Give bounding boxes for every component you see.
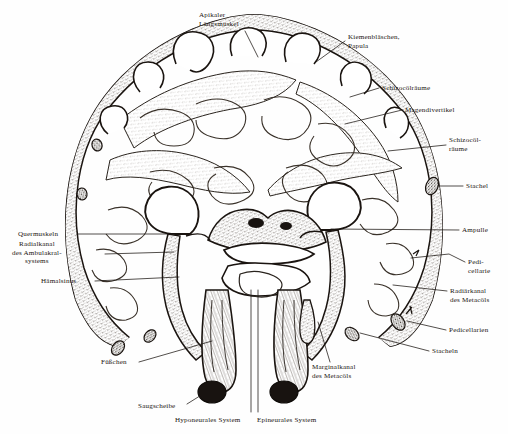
body-wall-group: [65, 14, 443, 358]
stacheln-label-line-0: Stacheln: [432, 347, 458, 356]
radialkanal-des-ambulakralsystems-label: Radialkanaldes Ambulakral-systems: [12, 240, 62, 266]
anatomical-figure: [0, 0, 508, 434]
schizocoelraeume-lower-label: Schizocöl-räume: [449, 136, 481, 153]
saugscheibe-label-line-0: Saugscheibe: [138, 402, 175, 411]
radiaerkanal-des-metacoels-label: Radiärkanaldes Metacöls: [450, 287, 489, 304]
kiemenblaeschen-papula-label-line-1: Papula: [348, 42, 400, 51]
radialkanal-des-ambulakralsystems-label-line-2: systems: [12, 257, 62, 266]
apikaler-laengsmuskel-label-line-1: Längsmuskel: [199, 20, 239, 29]
fuesschen-label-line-0: Füßchen: [101, 358, 127, 367]
pedicellarie-label-line-0: Pedi-: [468, 258, 490, 267]
schizocoelraeume-upper-label: Schizocölräume: [382, 84, 430, 93]
marginalkanal-des-metacoels-label-line-0: Marginalkanal: [312, 363, 356, 372]
tube-feet-group: [198, 290, 308, 403]
leader-schizocoel-lower: [388, 145, 446, 151]
cross-section-drawing: [0, 0, 508, 434]
pedicellarien-label-line-0: Pedicellarien: [449, 326, 488, 335]
apikaler-laengsmuskel-label-line-0: Apikaler: [199, 11, 239, 20]
fuesschen-label: Füßchen: [101, 358, 127, 367]
haemalsinus-label: Hämalsinus: [41, 277, 76, 286]
ambulacral-complex: [186, 209, 326, 297]
schizocoelraeume-upper-label-line-0: Schizocölräume: [382, 84, 430, 93]
radiaerkanal-des-metacoels-label-line-1: des Metacöls: [450, 296, 489, 305]
magendivertikel-label-line-0: Magendivertikel: [405, 106, 455, 115]
hyponeurales-system-label: Hyponeurales System: [175, 416, 240, 425]
pedicellarie-label-line-1: cellarie: [468, 267, 490, 276]
radialkanal-des-ambulakralsystems-label-line-0: Radialkanal: [12, 240, 62, 249]
stachel-label: Stachel: [466, 182, 488, 191]
ampulle-label: Ampulle: [462, 226, 488, 235]
radiaerkanal-des-metacoels-label-line-0: Radiärkanal: [450, 287, 489, 296]
saugscheibe-label: Saugscheibe: [138, 402, 175, 411]
epineurales-system-label-line-0: Epineurales System: [257, 416, 316, 425]
ampulle-label-line-0: Ampulle: [462, 226, 488, 235]
stachel-label-line-0: Stachel: [466, 182, 488, 191]
schizocoelraeume-lower-label-line-0: Schizocöl-: [449, 136, 481, 145]
magendivertikel-label: Magendivertikel: [405, 106, 455, 115]
quermuskeln-label-line-0: Quermuskeln: [18, 230, 58, 239]
epineurales-system-label: Epineurales System: [257, 416, 316, 425]
marginalkanal-des-metacoels-label: Marginalkanaldes Metacöls: [312, 363, 356, 380]
marginalkanal-des-metacoels-label-line-1: des Metacöls: [312, 372, 356, 381]
kiemenblaeschen-papula-label: Kiemenbläschen,Papula: [348, 33, 400, 50]
haemalsinus-label-line-0: Hämalsinus: [41, 277, 76, 286]
marginalkanal-structure: [300, 300, 315, 343]
stacheln-label: Stacheln: [432, 347, 458, 356]
kiemenblaeschen-papula-label-line-0: Kiemenbläschen,: [348, 33, 400, 42]
apikaler-laengsmuskel-label: ApikalerLängsmuskel: [199, 11, 239, 28]
hyponeurales-system-label-line-0: Hyponeurales System: [175, 416, 240, 425]
pedicellarie-label: Pedi-cellarie: [468, 258, 490, 275]
schizocoelraeume-lower-label-line-1: räume: [449, 145, 481, 154]
pedicellarien-label: Pedicellarien: [449, 326, 488, 335]
quermuskeln-label: Quermuskeln: [18, 230, 58, 239]
radialkanal-des-ambulakralsystems-label-line-1: des Ambulakral-: [12, 249, 62, 258]
